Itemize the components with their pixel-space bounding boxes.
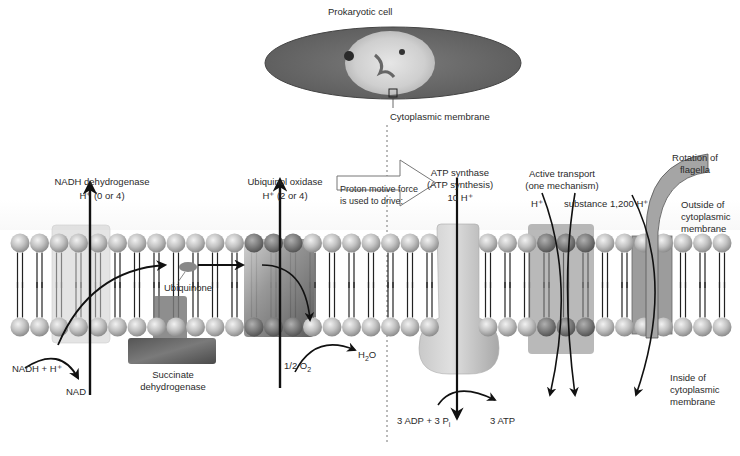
lipid-head [323,318,342,337]
pmf-label-line2: is used to drive: [340,195,403,207]
lipid-head [11,234,30,253]
lipid-head [147,318,166,337]
lipid-head [206,234,225,253]
lipid-head [498,318,517,337]
inside-label-2: cytoplasmic [670,384,720,396]
lipid-head [557,234,576,253]
prokaryotic-cell-label: Prokaryotic cell [328,6,392,18]
lipid-head [693,234,712,253]
ubiquinol-oxidase-label: Ubiquinol oxidase [240,176,330,188]
lipid-head [167,318,186,337]
prokaryotic-cell-illustration [265,27,521,108]
lipid-head [89,234,108,253]
lipid-head [50,234,69,253]
nad-output-label: NAD [66,386,86,398]
flagella-sublabel: flagella [660,164,730,176]
outside-label-3: membrane [681,223,726,235]
atp-synthase-label: ATP synthase [425,167,495,179]
lipid-head [615,318,634,337]
lipid-head [420,318,439,337]
lipid-head [713,318,732,337]
lipid-head [381,234,400,253]
lipid-head [225,234,244,253]
active-transport-label: Active transport [520,168,604,180]
lipid-head [108,318,127,337]
atp-synthase-sublabel: (ATP synthesis) [425,179,495,191]
lipid-head [30,318,49,337]
succinate-dehydrogenase-sublabel: dehydrogenase [130,381,216,393]
lipid-head [362,318,381,337]
outside-label-1: Outside of [681,199,724,211]
active-transport-sublabel: (one mechanism) [520,180,604,192]
lipid-head [89,318,108,337]
lipid-head [576,318,595,337]
nadh-input-label: NADH + H⁺ [12,363,62,375]
lipid-head [479,234,498,253]
lipid-head [518,234,537,253]
ubiquinol-oxidase-protons: H⁺ (2 or 4) [240,190,330,202]
lipid-head [167,234,186,253]
lipid-head [206,318,225,337]
lipid-head [342,234,361,253]
lipid-head [245,234,264,253]
lipid-head [342,318,361,337]
lipid-head [381,318,400,337]
membrane-diagram [0,0,740,456]
outside-label-2: cytoplasmic [681,211,731,223]
lipid-head [30,234,49,253]
pmf-label-line1: Proton motive force [340,183,418,195]
ubiquinone-label: Ubiquinone [164,282,212,294]
lipid-head [362,234,381,253]
ubiquinone-molecule [179,262,197,272]
lipid-head [147,234,166,253]
lipid-head [245,318,264,337]
lipid-head [693,318,712,337]
lipid-head [479,318,498,337]
lipid-head [537,318,556,337]
flagella-protons: 1,200 H⁺ [610,198,648,210]
lipid-head [284,234,303,253]
lipid-head [186,318,205,337]
lipid-head [713,234,732,253]
lipid-head [596,234,615,253]
lipid-head [128,234,147,253]
inside-label-1: Inside of [670,372,706,384]
succinate-dehydrogenase-protein [128,338,216,364]
lipid-head [537,234,556,253]
lipid-head [401,234,420,253]
cytoplasmic-membrane-callout: Cytoplasmic membrane [390,111,490,123]
lipid-head [69,234,88,253]
succinate-dehydrogenase-label: Succinate [130,369,216,381]
lipid-head [596,318,615,337]
lipid-head [303,234,322,253]
lipid-head [225,318,244,337]
nadh-dehydrogenase-protons: H⁺ (0 or 4) [40,190,164,202]
water-output-label: H2O [358,349,376,361]
lipid-head [576,234,595,253]
inside-label-3: membrane [670,396,715,408]
nadh-dehydrogenase-label: NADH dehydrogenase [40,176,164,188]
lipid-head [674,318,693,337]
atp-synthase-protons: 10 H⁺ [425,192,495,204]
lipid-head [284,318,303,337]
lipid-head [50,318,69,337]
lipid-head [128,318,147,337]
atp-output-label: 3 ATP [490,415,515,427]
active-transport-substance: substance [564,198,607,210]
adp-input-label: 3 ADP + 3 Pi [397,415,450,427]
lipid-head [674,234,693,253]
lipid-head [11,318,30,337]
lipid-head [108,234,127,253]
lipid-head [186,234,205,253]
lipid-head [420,234,439,253]
lipid-head [518,318,537,337]
lipid-head [323,234,342,253]
lipid-head [615,234,634,253]
flagella-label: Rotation of [660,152,730,164]
lipid-head [498,234,517,253]
lipid-head [303,318,322,337]
oxygen-input-label: 1/2 O2 [284,360,311,372]
lipid-head [401,318,420,337]
active-transport-proton: H⁺ [531,198,543,210]
